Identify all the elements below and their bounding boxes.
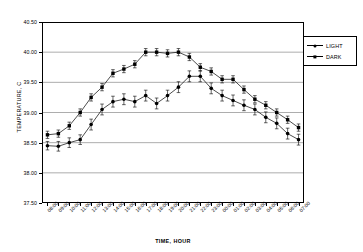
circle-marker-icon [314,44,317,47]
x-tick-mark [299,203,300,206]
y-tick-mark [39,203,42,204]
legend-label-dark: DARK [326,54,342,60]
legend-item-dark[interactable]: DARK [307,51,356,62]
plot-area [42,22,304,203]
x-tick-mark [168,203,169,206]
legend-item-light[interactable]: LIGHT [307,40,356,51]
legend-label-light: LIGHT [326,43,343,49]
legend: LIGHT DARK [303,36,357,66]
temperature-line-chart: 40.50 40.00 39.50 39.00 38.50 38.00 37.5… [0,0,363,252]
square-marker-icon [313,55,316,58]
legend-line-light [307,45,323,46]
y-tick-label: 39.00 [24,110,37,116]
y-axis-title: TEMPERATURE, C [16,52,22,162]
y-tick-label: 38.00 [24,170,37,176]
legend-line-dark [307,56,323,57]
y-tick-label: 40.50 [24,19,37,25]
y-tick-label: 39.50 [24,79,37,85]
x-axis-title: TIME, HOUR [42,238,304,244]
y-tick-label: 38.50 [24,140,37,146]
y-tick-label: 37.50 [24,200,37,206]
y-tick-label: 40.00 [24,49,37,55]
